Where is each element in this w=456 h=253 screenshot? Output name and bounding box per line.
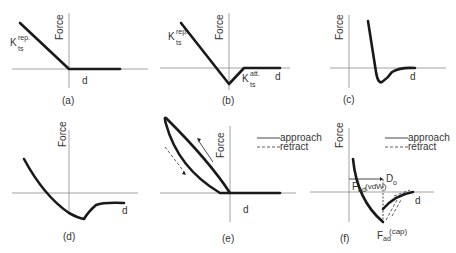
y-axis-label: Force [214,14,225,40]
panel-e: Force d (e) [160,118,296,244]
panel-b: Force d K rep. ts K att. ts (b) [160,13,290,106]
k-att-label: K [242,73,249,84]
fad-cap-subscript: ad [383,235,391,242]
panel-caption: (a) [62,95,74,106]
panel-caption: (c) [343,94,355,105]
force-curve [20,23,120,69]
panel-a: Force d K rep. ts (a) [10,13,148,106]
force-curve [24,159,124,219]
x-axis-label: d [275,71,281,82]
k-rep-superscript: rep. [18,34,30,42]
x-axis-label: d [415,195,421,206]
force-curve [181,23,280,84]
fad-vdw-tail: (vdW) [365,182,387,191]
force-distance-diagram: Force d K rep. ts (a) Force d K rep. ts … [0,0,456,253]
y-axis-label: Force [215,132,226,158]
y-axis-label: Force [54,14,65,40]
k-rep-label: K [10,37,17,48]
x-axis-label: d [82,75,88,86]
arrow-down-icon [182,171,186,175]
k-rep-label: K [168,31,175,42]
force-curve [368,21,415,82]
legend-retract-label: retract [280,141,309,152]
panel-d: Force d (d) [12,121,138,242]
arrow-up-icon [197,138,201,142]
y-axis-label: Force [334,122,345,148]
k-rep-subscript: ts [18,45,24,52]
legend-retract-label: retract [408,141,437,152]
k-att-superscript: att. [250,70,260,77]
panel-caption: (d) [63,231,75,242]
x-axis-label: d [410,71,416,82]
k-rep-superscript: rep. [176,28,188,36]
y-axis-label: Force [57,121,68,147]
x-axis-label: d [122,205,128,216]
x-axis-label: d [243,204,249,215]
retract-curve [383,192,413,209]
legend-e: approach retract [257,132,322,152]
k-att-subscript: ts [250,81,256,88]
retract-dashed-2 [392,200,401,216]
fad-cap-superscript: (cap) [389,227,408,236]
panel-c: Force d (c) [330,14,446,105]
k-rep-subscript: ts [176,39,182,46]
arrow-right-icon [380,177,383,181]
d0-subscript: o [393,179,397,186]
panel-caption: (b) [222,95,234,106]
legend-f: approach retract [385,132,450,152]
y-axis-label: Force [334,14,345,40]
panel-caption: (e) [222,233,234,244]
panel-caption: (f) [340,233,349,244]
